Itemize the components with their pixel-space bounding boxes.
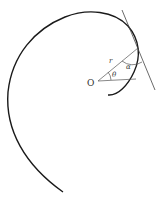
theta-label: θ: [112, 71, 117, 79]
radius-label: r: [109, 57, 113, 65]
tangent-line: [122, 10, 155, 90]
alpha-arc: [122, 61, 142, 65]
diagram-canvas: O r θ α: [0, 0, 159, 199]
spiral-curve: [8, 12, 139, 192]
alpha-label: α: [126, 63, 131, 71]
origin-label: O: [87, 78, 94, 88]
theta-arc: [108, 72, 111, 80]
